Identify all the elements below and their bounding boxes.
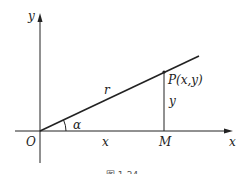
trig-definition-diagram: y x O α r P(x,y) y x M 图 1-24 xyxy=(0,0,244,174)
x-axis-label: x xyxy=(229,135,236,149)
x-axis-arrow-icon xyxy=(224,129,233,134)
point-p xyxy=(162,70,165,73)
angle-label: α xyxy=(73,118,81,132)
point-label: P(x,y) xyxy=(167,73,203,87)
y-axis-arrow-icon xyxy=(38,13,43,22)
foot-label: M xyxy=(158,135,172,149)
radius-label: r xyxy=(104,83,111,97)
figure-caption: 图 1-24 xyxy=(106,170,139,174)
horizontal-segment-label: x xyxy=(102,135,109,149)
angle-arc xyxy=(64,120,67,131)
origin-label: O xyxy=(26,135,36,149)
y-axis-label: y xyxy=(27,9,35,23)
vertical-segment-label: y xyxy=(168,94,176,108)
